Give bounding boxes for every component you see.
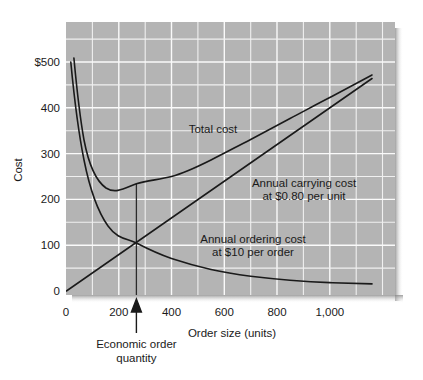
ordering-cost-label-line2: at $10 per order (212, 246, 294, 258)
eoq-cost-chart: $500 400 300 200 100 0 0 200 400 600 800… (0, 0, 423, 380)
x-tick-0: 0 (63, 306, 69, 318)
plot-shadow-bottom (72, 295, 403, 303)
total-cost-label: Total cost (189, 123, 238, 135)
eoq-label-line1: Economic order (96, 338, 177, 350)
y-tick-500: $500 (34, 56, 60, 68)
x-tick-200: 200 (109, 306, 128, 318)
x-tick-600: 600 (215, 306, 234, 318)
plot-shadow-right (395, 28, 403, 301)
y-tick-0: 0 (54, 285, 60, 297)
x-tick-400: 400 (162, 306, 181, 318)
y-axis-title: Cost (12, 157, 24, 181)
x-axis-title: Order size (units) (188, 327, 276, 339)
ordering-cost-label-line1: Annual ordering cost (200, 233, 306, 245)
y-tick-200: 200 (41, 193, 60, 205)
carrying-cost-label-line2: at $0.80 per unit (262, 190, 346, 202)
x-tick-1000: 1,000 (315, 306, 344, 318)
y-tick-300: 300 (41, 148, 60, 160)
x-tick-800: 800 (267, 306, 286, 318)
y-tick-400: 400 (41, 102, 60, 114)
eoq-label-line2: quantity (116, 352, 157, 364)
carrying-cost-label-line1: Annual carrying cost (252, 177, 357, 189)
y-tick-100: 100 (41, 239, 60, 251)
